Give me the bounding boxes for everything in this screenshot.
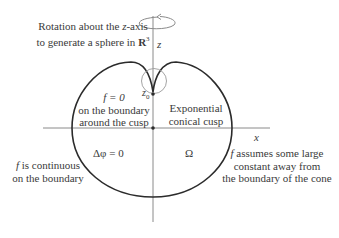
cusp-annotation: Exponential conical cusp bbox=[160, 102, 232, 127]
f-zero-annotation: f = 0 on the boundary around the cusp bbox=[76, 91, 152, 129]
continuity-annotation: f is continuous on the boundary bbox=[10, 159, 86, 184]
x-axis-label: x bbox=[254, 131, 259, 144]
cone-boundary-curve bbox=[72, 62, 232, 197]
domain-omega-label: Ω bbox=[185, 147, 193, 160]
rotation-caption: Rotation about the z-axis to generate a … bbox=[32, 20, 154, 48]
z-axis-label: z bbox=[157, 38, 161, 51]
large-constant-annotation: f assumes some large constant away from … bbox=[218, 147, 336, 185]
laplace-equation: Δφ = 0 bbox=[93, 147, 124, 160]
